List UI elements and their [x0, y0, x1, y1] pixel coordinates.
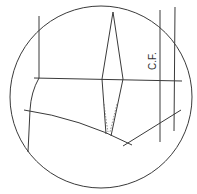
extension-line [174, 7, 175, 131]
detail-circle [10, 6, 192, 188]
diagonal-line [123, 110, 181, 146]
dart-left-leg [102, 12, 113, 134]
dart-dotted-right [110, 104, 117, 132]
dart-right-leg [111, 12, 123, 136]
hip-curve-line [28, 78, 39, 152]
diagram-canvas: C.F. [0, 0, 197, 194]
center-front-label: C.F. [147, 52, 158, 70]
pattern-diagram: C.F. [0, 0, 197, 194]
